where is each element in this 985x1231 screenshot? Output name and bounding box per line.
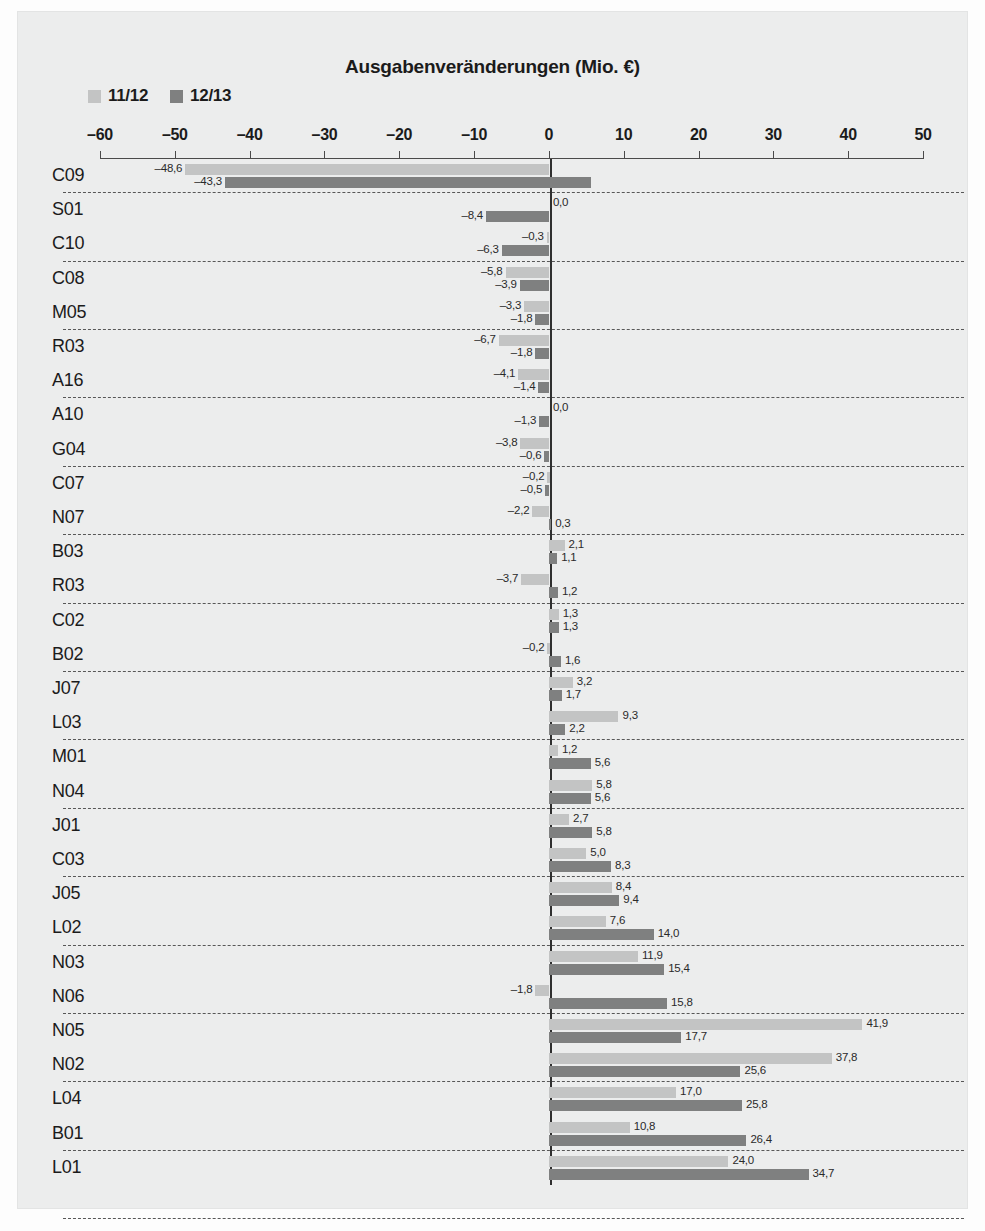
bar-11-12 (521, 574, 549, 585)
x-axis-tick-mark (923, 151, 924, 159)
x-axis-tick-mark (848, 151, 849, 159)
chart-row: C035,08,3 (0, 843, 985, 877)
bar-12-13 (502, 245, 549, 256)
bar-11-12 (549, 814, 569, 825)
category-label: C10 (52, 233, 114, 254)
x-axis-tick-label: –50 (162, 126, 188, 144)
bar-value-label: 15,8 (671, 996, 693, 1008)
bar-value-label: 11,9 (642, 949, 663, 961)
bar-value-label: –1,8 (511, 346, 533, 358)
category-label: A16 (52, 370, 114, 391)
bar-value-label: –3,7 (497, 572, 519, 584)
bar-11-12 (547, 643, 550, 654)
chart-row: M05–3,3–1,8 (0, 296, 985, 330)
bar-value-label: 5,8 (596, 778, 611, 790)
chart-row: A16–4,1–1,4 (0, 364, 985, 398)
bar-value-label: –2,2 (508, 504, 530, 516)
bar-11-12 (520, 438, 548, 449)
chart-row: L0417,025,8 (0, 1082, 985, 1116)
bar-12-13 (535, 314, 548, 325)
bar-11-12 (549, 916, 606, 927)
x-axis-tick-label: 0 (545, 126, 554, 144)
chart-row: B032,11,1 (0, 535, 985, 569)
bar-value-label: –6,3 (477, 243, 499, 255)
category-label: N05 (52, 1020, 114, 1041)
category-label: N02 (52, 1054, 114, 1075)
chart-page: Ausgabenveränderungen (Mio. €) 11/1212/1… (0, 0, 985, 1231)
bar-12-13 (549, 587, 558, 598)
bar-12-13 (539, 416, 549, 427)
bar-value-label: 5,6 (595, 756, 610, 768)
bar-value-label: 1,7 (566, 688, 581, 700)
bar-11-12 (524, 301, 549, 312)
bar-12-13 (544, 451, 548, 462)
chart-row: C07–0,2–0,5 (0, 467, 985, 501)
x-axis-tick-mark (474, 151, 475, 159)
bar-value-label: –8,4 (461, 209, 483, 221)
chart-row: J058,49,4 (0, 877, 985, 911)
legend-swatch-icon (170, 90, 183, 103)
bar-12-13 (549, 519, 552, 530)
bar-value-label: 1,3 (563, 620, 578, 632)
bar-12-13 (549, 1100, 742, 1111)
x-axis-tick-label: –20 (386, 126, 412, 144)
bar-11-12 (549, 848, 586, 859)
chart-row: N0237,825,6 (0, 1048, 985, 1082)
x-axis-tick-label: 10 (615, 126, 632, 144)
bar-value-label: 1,3 (563, 607, 578, 619)
category-label: R03 (52, 336, 114, 357)
x-axis-tick-mark (399, 151, 400, 159)
bar-value-label: 0,0 (553, 401, 568, 413)
category-label: M01 (52, 746, 114, 767)
bar-12-13 (549, 758, 591, 769)
bar-value-label: 9,4 (623, 893, 638, 905)
bar-11-12 (549, 677, 573, 688)
category-label: C03 (52, 849, 114, 870)
bar-11-12 (518, 369, 549, 380)
chart-row: C10–0,3–6,3 (0, 227, 985, 261)
chart-row: N045,85,6 (0, 775, 985, 809)
chart-row: J012,75,8 (0, 809, 985, 843)
bar-12-13 (549, 656, 561, 667)
bar-12-13 (549, 998, 667, 1009)
bar-value-label: –4,1 (494, 367, 516, 379)
bar-value-label: 2,7 (573, 812, 588, 824)
bar-value-label: 15,4 (668, 962, 690, 974)
bar-12-13 (549, 861, 611, 872)
bar-11-12 (549, 609, 559, 620)
bar-value-label: 25,6 (744, 1064, 766, 1076)
bar-12-13 (549, 793, 591, 804)
chart-row: S010,0–8,4 (0, 193, 985, 227)
bar-value-label: 5,8 (596, 825, 611, 837)
bar-12-13 (549, 929, 654, 940)
category-label: M05 (52, 302, 114, 323)
bar-12-13 (549, 724, 565, 735)
category-label: R03 (52, 575, 114, 596)
bar-value-label: –0,5 (521, 483, 543, 495)
category-label: B03 (52, 541, 114, 562)
row-separator (63, 1218, 964, 1219)
category-label: B02 (52, 644, 114, 665)
plot-area: C09–48,6–43,3S010,0–8,4C10–0,3–6,3C08–5,… (0, 159, 985, 1185)
chart-legend: 11/1212/13 (88, 86, 231, 106)
bar-11-12 (185, 164, 549, 175)
x-axis-tick-label: –30 (312, 126, 338, 144)
bar-value-label: 24,0 (732, 1154, 754, 1166)
x-axis-tick-mark (324, 151, 325, 159)
bar-value-label: 1,2 (562, 743, 577, 755)
bar-11-12 (547, 472, 550, 483)
bar-value-label: –6,7 (474, 333, 496, 345)
x-axis-tick-label: 20 (690, 126, 707, 144)
x-axis-tick-label: –40 (237, 126, 263, 144)
category-label: A10 (52, 404, 114, 425)
bar-value-label: –3,8 (496, 436, 518, 448)
bar-value-label: –0,2 (523, 470, 545, 482)
x-axis-tick-mark (250, 151, 251, 159)
chart-row: G04–3,8–0,6 (0, 433, 985, 467)
bar-12-13 (538, 382, 548, 393)
chart-row: R03–6,7–1,8 (0, 330, 985, 364)
bar-12-13 (225, 177, 591, 188)
bar-value-label: 1,2 (562, 585, 577, 597)
bar-value-label: 3,2 (577, 675, 592, 687)
bar-value-label: 1,1 (561, 551, 576, 563)
